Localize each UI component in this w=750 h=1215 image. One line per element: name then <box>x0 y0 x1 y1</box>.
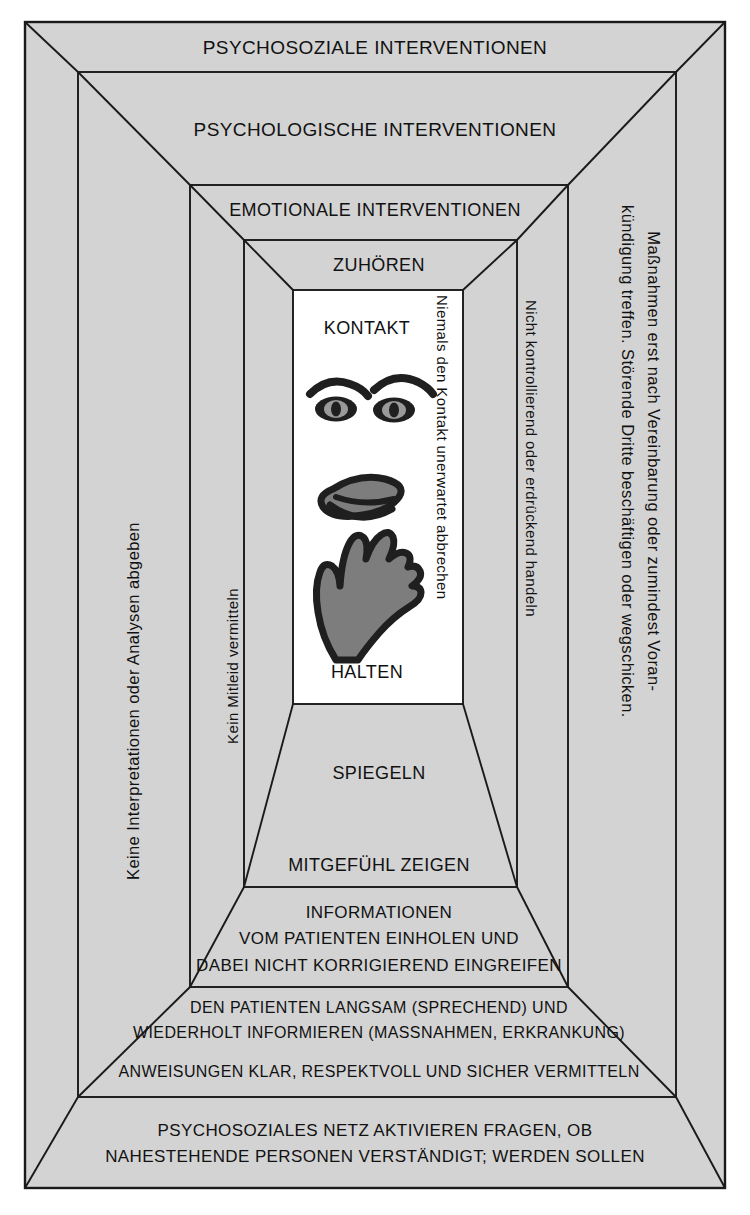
core-label-kontakt: KONTAKT <box>324 318 410 339</box>
side-label-inner-right: Nicht kontrollierend oder erdrückend han… <box>523 300 540 617</box>
band-label-spiegeln: SPIEGELN <box>332 763 425 784</box>
bottom-block-informationen: INFORMATIONEN VOM PATIENTEN EINHOLEN UND… <box>196 900 562 979</box>
core-side-note: Niemals den Kontakt unerwartet abbrechen <box>434 295 451 600</box>
side-label-inner-left: Kein Mitleid vermitteln <box>224 588 241 744</box>
core-label-halten: HALTEN <box>331 662 403 683</box>
bottom-block-anweisungen: ANWEISUNGEN KLAR, RESPEKTVOLL UND SICHER… <box>118 1063 639 1081</box>
band-label-emotionale: EMOTIONALE INTERVENTIONEN <box>229 200 521 221</box>
side-label-outer-right: Maßnahmen erst nach Vereinbarung oder zu… <box>615 205 666 718</box>
side-label-outer-left: Keine Interpretationen oder Analysen abg… <box>124 522 143 880</box>
bottom-block-netz: PSYCHOSOZIALES NETZ AKTIVIEREN FRAGEN, O… <box>105 1118 645 1171</box>
band-label-zuhoeren: ZUHÖREN <box>333 255 425 276</box>
band-label-psychosoziale: PSYCHOSOZIALE INTERVENTIONEN <box>203 37 547 59</box>
band-label-psychologische: PSYCHOLOGISCHE INTERVENTIONEN <box>194 119 557 141</box>
bottom-block-patienten: DEN PATIENTEN LANGSAM (SPRECHEND) UND WI… <box>133 996 625 1046</box>
diagram-canvas: PSYCHOSOZIALE INTERVENTIONEN PSYCHOLOGIS… <box>0 0 750 1215</box>
band-label-mitgefuehl: MITGEFÜHL ZEIGEN <box>288 855 470 876</box>
